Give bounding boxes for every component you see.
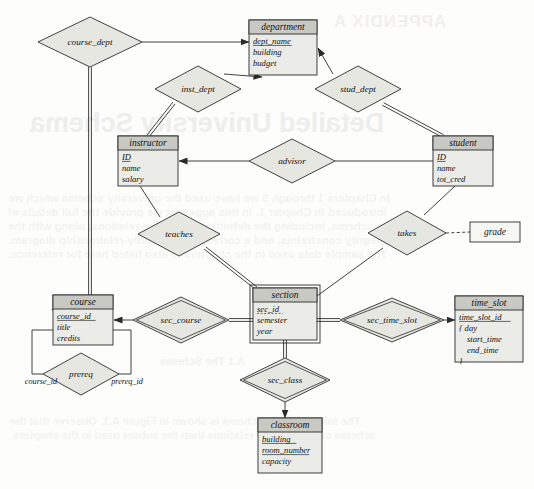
entity-classroom[interactable]: classroombuildingroom_numbercapacity: [258, 418, 322, 473]
relationship-sec_time_slot[interactable]: sec_time_slot: [340, 298, 444, 342]
relationship-advisor[interactable]: advisor: [249, 139, 335, 183]
entity-attribute: tot_cred: [437, 174, 466, 184]
edge-takes-student: [424, 186, 455, 215]
entity-attribute: capacity: [262, 456, 291, 466]
entity-attribute: year: [256, 326, 273, 336]
edge-teaches-section: [204, 247, 257, 289]
entity-attribute: salary: [122, 174, 144, 184]
entity-attribute: course_id: [57, 311, 92, 321]
edge-stud_dept-department: [318, 48, 333, 74]
entity-attribute: { day: [459, 323, 477, 333]
role-label-prereq-role-course-id: course_id: [25, 377, 58, 386]
relationship-label: sec_course: [161, 315, 202, 325]
entity-attribute: }: [459, 356, 463, 366]
entity-attribute: name: [122, 163, 141, 173]
entity-title: course: [70, 297, 95, 307]
relationship-label: stud_dept: [340, 84, 376, 94]
nodes-layer: departmentdept_namebuildingbudgetinstruc…: [25, 17, 523, 473]
entity-course[interactable]: coursecourse_idtitlecredits: [53, 295, 113, 345]
entity-title: classroom: [271, 420, 310, 430]
entity-attribute: ID: [121, 152, 132, 162]
entity-attribute: dept_name: [253, 36, 291, 46]
entity-attribute: ID: [436, 152, 447, 162]
edge-takes-grade: [446, 232, 470, 233]
relationship-course_dept[interactable]: course_dept: [38, 17, 142, 67]
er-diagram-canvas: departmentdept_namebuildingbudgetinstruc…: [0, 0, 534, 489]
relationship-takes[interactable]: takes: [368, 211, 446, 255]
edge-sec_course-section: [229, 319, 253, 322]
entity-attribute: credits: [57, 333, 81, 343]
entity-attribute: title: [57, 322, 71, 332]
relationship-label: sec_time_slot: [367, 315, 417, 325]
relationship-label: inst_dept: [181, 84, 215, 94]
entity-attribute: semester: [257, 315, 288, 325]
relationship-teaches[interactable]: teaches: [138, 212, 220, 256]
entity-title: instructor: [129, 138, 167, 148]
entity-attribute: end_time: [467, 345, 499, 355]
entity-title: department: [261, 22, 305, 32]
relationship-label: takes: [398, 228, 417, 238]
entity-attribute: building: [253, 47, 282, 57]
entity-attribute: name: [437, 163, 456, 173]
entity-attribute: time_slot_id: [459, 312, 502, 322]
edge-inst_dept-instructor: [147, 102, 175, 137]
entity-section[interactable]: sectionsec_idsemesteryear: [250, 285, 320, 343]
edge-prereq-course-right: [113, 330, 131, 374]
entity-attribute: start_time: [467, 334, 502, 344]
descriptive-attribute-label: grade: [484, 227, 506, 237]
edge-prereq-course-left: [32, 330, 53, 374]
relationship-label: prereq: [68, 369, 93, 379]
entity-attribute: budget: [253, 58, 277, 68]
entity-attribute: building: [262, 434, 291, 444]
entity-department[interactable]: departmentdept_namebuildingbudget: [249, 20, 317, 75]
edge-course_dept-course: [52, 67, 92, 310]
relationship-label: sec_class: [268, 375, 303, 385]
relationship-label: course_dept: [68, 37, 113, 47]
descriptive-attribute-grade[interactable]: grade: [470, 222, 520, 242]
entity-time_slot[interactable]: time_slottime_slot_id{ daystart_timeend_…: [455, 296, 523, 366]
entity-title: section: [272, 290, 299, 300]
relationship-inst_dept[interactable]: inst_dept: [155, 66, 241, 112]
er-diagram-page: APPENDIX A Detailed University Schema In…: [0, 0, 534, 489]
relationship-sec_class[interactable]: sec_class: [240, 358, 330, 402]
relationship-prereq[interactable]: prereq: [43, 353, 119, 395]
entity-student[interactable]: studentIDnametot_cred: [433, 136, 493, 186]
edge-sec_time_slot-section: [317, 319, 340, 322]
entity-title: time_slot: [472, 298, 507, 308]
entity-title: student: [449, 138, 477, 148]
edge-teaches-instructor: [140, 186, 160, 217]
edge-stud_dept-student: [382, 103, 443, 137]
role-label-prereq-role-prereq-id: prereq_id: [110, 377, 144, 386]
entity-attribute: room_number: [262, 445, 311, 455]
entity-instructor[interactable]: instructorIDnamesalary: [118, 136, 178, 186]
relationship-label: advisor: [278, 156, 306, 166]
relationship-sec_course[interactable]: sec_course: [133, 297, 229, 343]
entity-attribute: sec_id: [257, 304, 280, 314]
relationship-label: teaches: [165, 229, 193, 239]
edge-takes-section: [317, 248, 383, 296]
